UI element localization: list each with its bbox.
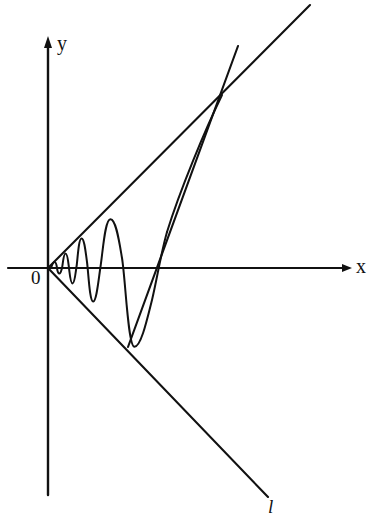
y-axis-label: y [57, 33, 67, 53]
x-axis [8, 264, 352, 272]
upper-envelope-line [48, 5, 310, 268]
graph-svg [0, 0, 371, 518]
y-axis-arrow-icon [44, 36, 52, 48]
lower-envelope-line [48, 268, 268, 497]
secant-line [128, 46, 238, 347]
line-l-label: l [268, 497, 273, 516]
x-axis-label: x [356, 256, 366, 276]
figure-canvas: y x 0 l [0, 0, 371, 518]
origin-label: 0 [31, 268, 41, 287]
oscillating-curve [51, 219, 167, 347]
x-axis-arrow-icon [342, 264, 352, 272]
